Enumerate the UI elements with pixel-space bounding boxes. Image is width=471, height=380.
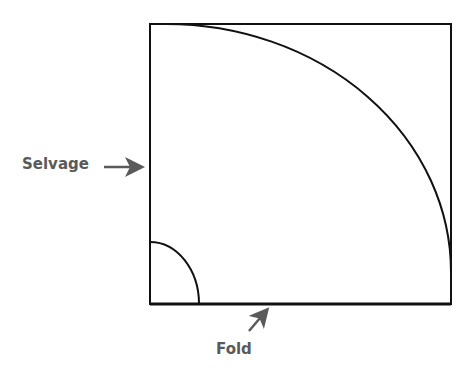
fold-arrow-icon bbox=[249, 311, 266, 331]
fabric-diagram bbox=[0, 0, 471, 380]
inner-circle-arc bbox=[150, 242, 199, 304]
selvage-label: Selvage bbox=[22, 155, 89, 173]
outer-circle-arc bbox=[166, 24, 451, 272]
fold-label: Fold bbox=[216, 340, 252, 358]
fabric-rectangle bbox=[150, 24, 451, 304]
